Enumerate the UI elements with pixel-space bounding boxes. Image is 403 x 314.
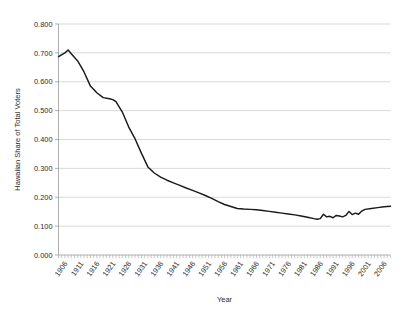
y-tick-label: 0.300: [34, 164, 53, 173]
y-axis-title: Hawaiian Share of Total Voters: [13, 88, 22, 191]
y-tick-label: 0.700: [34, 49, 53, 58]
gridlines: [59, 24, 391, 255]
x-tick-label: 1981: [292, 259, 309, 278]
x-tick-label: 1996: [340, 259, 357, 278]
chart-container: 0.8000.7000.6000.5000.4000.3000.2000.100…: [0, 0, 403, 314]
x-tick-label: 1946: [180, 259, 197, 278]
y-tick-label: 0.600: [34, 77, 53, 86]
x-tick-label: 2006: [372, 259, 389, 278]
y-tick-label: 0.800: [34, 20, 53, 29]
x-tick-label: 1991: [324, 259, 341, 278]
x-tick-label: 1916: [85, 259, 102, 278]
x-tick-label: 1956: [212, 259, 229, 278]
axis-ticks: [55, 24, 391, 258]
data-series: [59, 50, 391, 219]
x-tick-label: 1906: [53, 259, 70, 278]
x-tick-label: 1921: [101, 259, 118, 278]
x-tick-label: 1966: [244, 259, 261, 278]
x-tick-label: 1961: [228, 259, 245, 278]
x-tick-label: 1941: [164, 259, 181, 278]
x-axis-title: Year: [217, 295, 233, 304]
x-tick-label: 2001: [356, 259, 373, 278]
x-tick-label: 1926: [117, 259, 134, 278]
x-tick-label: 1931: [133, 259, 150, 278]
x-tick-label: 1976: [276, 259, 293, 278]
series-line: [59, 50, 391, 219]
x-tick-label: 1986: [308, 259, 325, 278]
x-tick-label: 1971: [260, 259, 277, 278]
x-axis-tick-labels: 1906191119161921192619311936194119461951…: [53, 259, 389, 278]
y-tick-label: 0.400: [34, 135, 53, 144]
y-axis-tick-labels: 0.8000.7000.6000.5000.4000.3000.2000.100…: [34, 20, 53, 260]
y-tick-label: 0.000: [34, 251, 53, 260]
line-chart: 0.8000.7000.6000.5000.4000.3000.2000.100…: [0, 0, 403, 314]
x-tick-label: 1936: [148, 259, 165, 278]
x-tick-label: 1911: [69, 259, 85, 277]
y-tick-label: 0.200: [34, 193, 53, 202]
y-tick-label: 0.100: [34, 222, 53, 231]
x-tick-label: 1951: [196, 259, 213, 278]
y-tick-label: 0.500: [34, 106, 53, 115]
